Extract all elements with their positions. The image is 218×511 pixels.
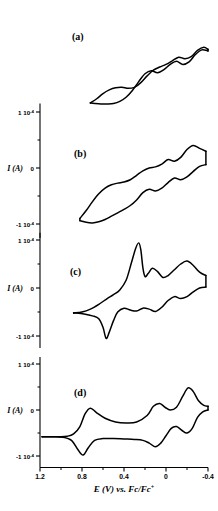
y-tick-label: -1 10-4 (16, 332, 35, 340)
y-tick-label: -1 10-4 (16, 452, 35, 460)
cv-trace-anodic-forward-scan (74, 243, 206, 313)
y-tick-label: 0 (31, 407, 35, 414)
figure-cyclic-voltammograms: (a)1 10-40-1 10-4I (A)(b)1 10-40-1 10-4I… (0, 0, 218, 511)
figure-canvas: (a)1 10-40-1 10-4I (A)(b)1 10-40-1 10-4I… (0, 0, 218, 511)
cv-trace-anodic-forward-scan (90, 47, 208, 103)
y-tick-label: 0 (31, 165, 35, 172)
cv-trace-anodic-forward-scan (42, 388, 208, 437)
x-tick-label: 0 (164, 473, 168, 480)
y-axis-label: I (A) (6, 406, 23, 415)
panel-c: 1 10-40-1 10-4I (A)(c) (6, 233, 206, 348)
panel-label-b: (b) (74, 148, 86, 160)
y-tick-label: 0 (31, 285, 35, 292)
panel-label-c: (c) (70, 266, 81, 278)
x-tick-label: 0.8 (77, 473, 87, 480)
x-tick-label: 0.4 (119, 473, 129, 480)
panel-a: (a) (72, 31, 208, 104)
cv-trace-cathodic-return-scan (42, 410, 208, 455)
y-axis-label: I (A) (6, 164, 23, 173)
y-tick-label: 1 10-4 (18, 236, 35, 244)
cv-trace-cathodic-return-scan (74, 287, 206, 338)
panel-b: 1 10-40-1 10-4I (A)(b) (6, 104, 206, 238)
y-tick-label: 1 10-4 (18, 360, 35, 368)
panel-label-a: (a) (72, 31, 84, 43)
panel-label-d: (d) (74, 387, 86, 399)
cv-trace-anodic-forward-scan (80, 146, 206, 219)
x-tick-label: 1.2 (35, 473, 45, 480)
panel-d: 1 10-40-1 10-4I (A)1.20.80.40-0.4E (V) v… (6, 357, 214, 493)
x-axis-label: E (V) vs. Fc/Fc+ (93, 484, 155, 494)
y-axis-label: I (A) (6, 284, 23, 293)
y-tick-label: 1 10-4 (18, 108, 35, 116)
y-tick-label: -1 10-4 (16, 220, 35, 228)
x-tick-label: -0.4 (202, 473, 214, 480)
